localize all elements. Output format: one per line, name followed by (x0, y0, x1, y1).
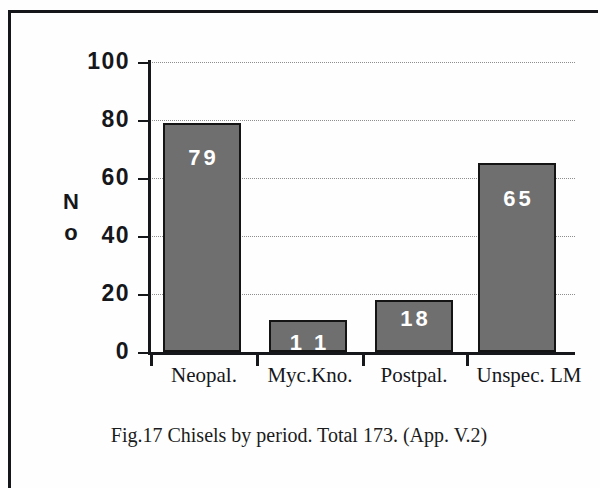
bar-value-unspec-lm: 65 (480, 188, 554, 210)
scanned-page: 100 80 60 40 20 0 N o 79 1 1 18 65 (0, 0, 600, 488)
y-axis-line (148, 60, 151, 354)
y-axis-title-line-2: o (58, 217, 84, 248)
bar-myc-kno: 1 1 (269, 320, 347, 352)
xtick-label-neopal: Neopal. (152, 364, 256, 387)
bar-value-postpal: 18 (377, 308, 451, 330)
gridline-80 (150, 120, 575, 121)
ytick-label-0: 0 (42, 340, 130, 363)
ytick-label-20: 20 (42, 282, 130, 305)
figure-caption: Fig.17 Chisels by period. Total 173. (Ap… (8, 424, 590, 447)
xtick-label-myc-kno: Myc.Kno. (256, 364, 364, 387)
bar-neopal: 79 (163, 123, 241, 352)
bar-unspec-lm: 65 (478, 163, 556, 352)
y-axis-title-line-1: N (58, 186, 84, 217)
ytick-label-40: 40 (42, 224, 130, 247)
y-axis-title: N o (58, 186, 84, 248)
bar-value-myc-kno: 1 1 (271, 332, 345, 354)
xtick-label-unspec-lm: Unspec. LM (464, 364, 594, 387)
bar-value-neopal: 79 (165, 147, 239, 169)
gridline-100 (150, 62, 575, 63)
ytick-label-80: 80 (42, 108, 130, 131)
bar-chart: 100 80 60 40 20 0 N o 79 1 1 18 65 (0, 0, 600, 488)
ytick-label-100: 100 (42, 50, 130, 73)
ytick-label-60: 60 (42, 166, 130, 189)
bar-postpal: 18 (375, 300, 453, 352)
xtick-label-postpal: Postpal. (362, 364, 466, 387)
